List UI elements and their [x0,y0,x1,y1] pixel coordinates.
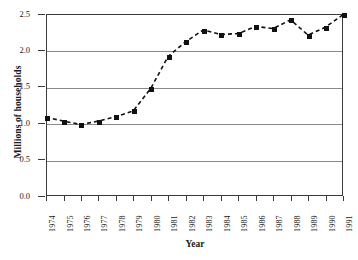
x-axis-tick-label: 1974 [49,215,57,232]
x-axis-tick-mark [116,196,117,201]
x-axis-tick-label: 1989 [311,215,319,232]
x-axis-tick-mark [256,196,257,201]
x-axis-tick-mark [151,196,152,201]
y-axis-tick-label: 0.0 [0,192,30,201]
x-axis-tick-mark [203,196,204,201]
x-axis-tick-label: 1988 [294,215,302,232]
x-axis-tick-mark [308,196,309,201]
x-axis-tick-label: 1981 [171,215,179,232]
x-axis-tick-mark [291,196,292,201]
x-axis-tick-mark [133,196,134,201]
y-axis-tick-label: 2.5 [0,10,30,19]
x-axis-tick-mark [186,196,187,201]
x-axis-tick-label: 1987 [276,215,284,232]
chart-container: Millions of households 0.00.51.01.52.02.… [0,0,358,260]
x-axis-tick-mark [238,196,239,201]
x-axis-tick-label: 1978 [119,215,127,232]
x-axis-title: Year [46,239,344,249]
data-series-line [46,14,343,196]
x-axis-tick-label: 1976 [84,215,92,232]
x-axis-tick-label: 1979 [136,215,144,232]
x-axis-tick-label: 1975 [67,215,75,232]
x-axis-tick-mark [98,196,99,201]
x-axis-tick-mark [273,196,274,201]
x-axis-tick-label: 1984 [224,215,232,232]
x-axis-tick-mark [64,196,65,201]
y-axis-tick-label: 0.5 [0,155,30,164]
x-axis-tick-mark [168,196,169,201]
x-axis-tick-label: 1977 [101,215,109,232]
y-axis-tick-mark [38,196,45,197]
x-axis-tick-label: 1986 [259,215,267,232]
x-axis-tick-mark [46,196,47,201]
x-axis-tick-label: 1990 [329,215,337,232]
y-axis-tick-label: 1.0 [0,119,30,128]
x-axis-tick-mark [343,196,344,201]
y-axis-tick-mark [38,50,45,51]
x-axis-tick-label: 1983 [206,215,214,232]
y-axis-tick-mark [38,14,45,15]
x-axis-tick-label: 1991 [346,215,354,232]
y-axis-tick-label: 1.5 [0,82,30,91]
x-axis-tick-mark [81,196,82,201]
x-axis-tick-mark [221,196,222,201]
y-axis-tick-label: 2.0 [0,46,30,55]
x-axis-tick-mark [326,196,327,201]
y-axis-title: Millions of households [13,32,23,192]
y-axis-tick-mark [38,86,45,87]
x-axis-tick-label: 1982 [189,215,197,232]
y-axis-tick-mark [38,159,45,160]
y-axis-tick-mark [38,123,45,124]
x-axis-tick-label: 1980 [154,215,162,232]
x-axis-tick-label: 1985 [241,215,249,232]
